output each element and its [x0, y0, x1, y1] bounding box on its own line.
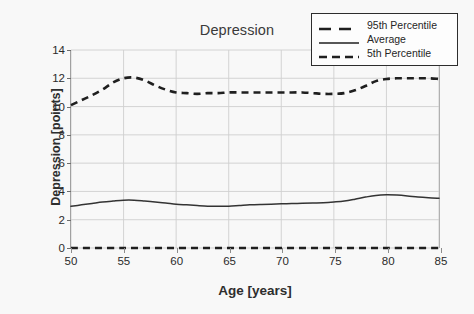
legend-item[interactable]: Average — [319, 32, 451, 46]
x-tick-mark — [388, 248, 389, 253]
legend-label: 95th Percentile — [367, 20, 437, 31]
x-axis-label: Age [years] — [70, 283, 440, 298]
x-tick-mark — [177, 248, 178, 253]
series-line-2 — [71, 195, 439, 207]
data-series-layer — [71, 50, 439, 248]
y-tick-mark — [67, 107, 71, 108]
series-line-1 — [71, 77, 439, 105]
x-tick-mark — [282, 248, 283, 253]
x-tick-label: 60 — [170, 255, 183, 267]
legend-swatch-dashed-icon — [319, 48, 359, 58]
legend-item[interactable]: 5th Percentile — [319, 46, 451, 60]
x-tick-mark — [441, 248, 442, 253]
x-tick-label: 85 — [435, 255, 448, 267]
y-tick-mark — [67, 135, 71, 136]
y-tick-label: 4 — [59, 185, 65, 197]
y-tick-mark — [67, 220, 71, 221]
y-tick-label: 12 — [52, 72, 65, 84]
legend-label: Average — [367, 34, 406, 45]
y-tick-label: 6 — [59, 157, 65, 169]
chart-figure: Depression Depression [points] Age [year… — [0, 0, 474, 314]
y-tick-label: 0 — [59, 242, 65, 254]
x-tick-mark — [71, 248, 72, 253]
x-tick-mark — [230, 248, 231, 253]
y-tick-mark — [67, 163, 71, 164]
x-tick-mark — [335, 248, 336, 253]
chart-legend[interactable]: 95th PercentileAverage5th Percentile — [311, 13, 458, 66]
x-tick-label: 65 — [223, 255, 236, 267]
x-tick-label: 75 — [329, 255, 342, 267]
legend-item[interactable]: 95th Percentile — [319, 18, 451, 32]
y-tick-mark — [67, 50, 71, 51]
legend-label: 5th Percentile — [367, 48, 431, 59]
x-tick-label: 55 — [117, 255, 130, 267]
y-tick-label: 2 — [59, 214, 65, 226]
x-tick-label: 50 — [65, 255, 78, 267]
y-tick-mark — [67, 78, 71, 79]
plot-area: 02468101214 5055606570758085 — [70, 50, 440, 248]
x-tick-label: 70 — [276, 255, 289, 267]
legend-swatch-solid-icon — [319, 34, 359, 44]
y-tick-mark — [67, 191, 71, 192]
y-tick-label: 10 — [52, 101, 65, 113]
x-tick-label: 80 — [382, 255, 395, 267]
y-tick-label: 14 — [52, 44, 65, 56]
legend-swatch-dashed-icon — [319, 20, 359, 30]
x-tick-mark — [124, 248, 125, 253]
y-tick-label: 8 — [59, 129, 65, 141]
